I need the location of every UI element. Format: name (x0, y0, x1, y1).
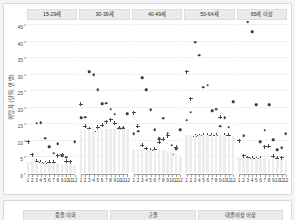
x-tick-mark (212, 175, 213, 177)
bar (56, 163, 59, 173)
x-tick-label: 12 (178, 178, 183, 183)
panel-inner (79, 21, 130, 173)
bar (189, 135, 192, 173)
x-tick-mark (195, 175, 196, 177)
x-tick-label: 2 (242, 178, 245, 183)
x-tick-mark (187, 175, 188, 177)
x-axis-group-3: 123456789101112 (132, 173, 183, 193)
x-tick-label: 7 (105, 178, 108, 183)
gridline (237, 123, 288, 124)
y-tick-label: 35 (17, 57, 23, 63)
x-tick-label: 6 (154, 178, 157, 183)
bar (255, 158, 258, 173)
x-tick-mark (239, 175, 240, 177)
x-tick-mark (286, 175, 287, 177)
x-tick-labels: 123456789101112 (79, 178, 130, 187)
gridline (132, 74, 183, 75)
x-tick-mark (176, 175, 177, 177)
gridline (79, 107, 130, 108)
bar (206, 135, 209, 173)
x-tick-mark (151, 175, 152, 177)
x-tick-label: 4 (40, 178, 43, 183)
bar (259, 158, 262, 173)
x-axis: 1234567891011121234567891011121234567891… (26, 173, 288, 193)
data-point-dot (154, 128, 157, 131)
x-tick-mark (273, 175, 274, 177)
data-point-dot (48, 145, 51, 148)
x-tick-mark (70, 175, 71, 177)
x-tick-mark (191, 175, 192, 177)
x-tick-label: 6 (259, 178, 262, 183)
data-point-dot (113, 113, 116, 116)
x-tick-label: 3 (141, 178, 144, 183)
bar (145, 150, 148, 173)
data-point-dot (228, 126, 231, 129)
x-tick-mark (163, 175, 164, 177)
bar (126, 129, 129, 173)
data-point-dot (80, 116, 83, 119)
screenshot-root: 15-29세30-39세40-49세50-64세65세 이상 취업자 (단위: … (0, 0, 295, 220)
x-axis-group-1: 123456789101112 (26, 173, 77, 193)
bar (211, 135, 214, 173)
x-tick-label: 12 (231, 178, 236, 183)
gridline (26, 74, 77, 75)
bar (31, 162, 34, 173)
data-point-dot (73, 140, 76, 143)
x-tick-mark (159, 175, 160, 177)
x-tick-label: 1 (238, 178, 241, 183)
y-tick-label: 30 (17, 74, 23, 80)
x-tick-mark (37, 175, 38, 177)
x-tick-mark (172, 175, 173, 177)
data-point-dot (132, 133, 135, 136)
x-tick-mark (54, 175, 55, 177)
bar (48, 163, 51, 173)
x-tick-label: 4 (92, 178, 95, 183)
x-tick-mark (203, 175, 204, 177)
bar (149, 150, 152, 173)
bar (194, 135, 197, 173)
x-tick-label: 2 (189, 178, 192, 183)
bar (27, 162, 30, 173)
x-tick-label: 5 (149, 178, 152, 183)
gridline (184, 24, 235, 25)
bar (73, 166, 76, 173)
bar (132, 150, 135, 173)
bar (185, 135, 188, 173)
bar (166, 151, 169, 173)
data-point-plus (174, 145, 178, 149)
x-tick-mark (225, 175, 226, 177)
x-tick-mark (62, 175, 63, 177)
gridline (237, 74, 288, 75)
x-tick-label: 8 (56, 178, 59, 183)
data-point-dot (280, 147, 283, 150)
x-tick-label: 12 (72, 178, 77, 183)
data-point-plus (237, 139, 241, 143)
data-point-plus (30, 153, 34, 157)
x-tick-label: 8 (162, 178, 165, 183)
bar (223, 135, 226, 173)
facet-panel-3 (132, 21, 183, 173)
bar (44, 162, 47, 173)
bar (263, 158, 266, 173)
x-tick-label: 4 (145, 178, 148, 183)
x-tick-mark (138, 175, 139, 177)
bar (154, 150, 157, 173)
gridline (237, 24, 288, 25)
data-point-dot (179, 128, 182, 131)
bar (242, 158, 245, 173)
x-tick-mark (282, 175, 283, 177)
facet-strip-4: 50-64세 (184, 9, 234, 20)
gridline (184, 90, 235, 91)
gridline (184, 123, 235, 124)
data-point-dot (223, 116, 226, 119)
gridline (184, 107, 235, 108)
gridline (79, 57, 130, 58)
data-point-plus (136, 124, 140, 128)
data-point-dot (232, 101, 235, 104)
bar (179, 156, 182, 173)
data-point-dot (145, 89, 148, 92)
x-tick-labels: 123456789101112 (237, 178, 288, 187)
x-tick-mark (123, 175, 124, 177)
gridline (79, 74, 130, 75)
bar (97, 129, 100, 173)
